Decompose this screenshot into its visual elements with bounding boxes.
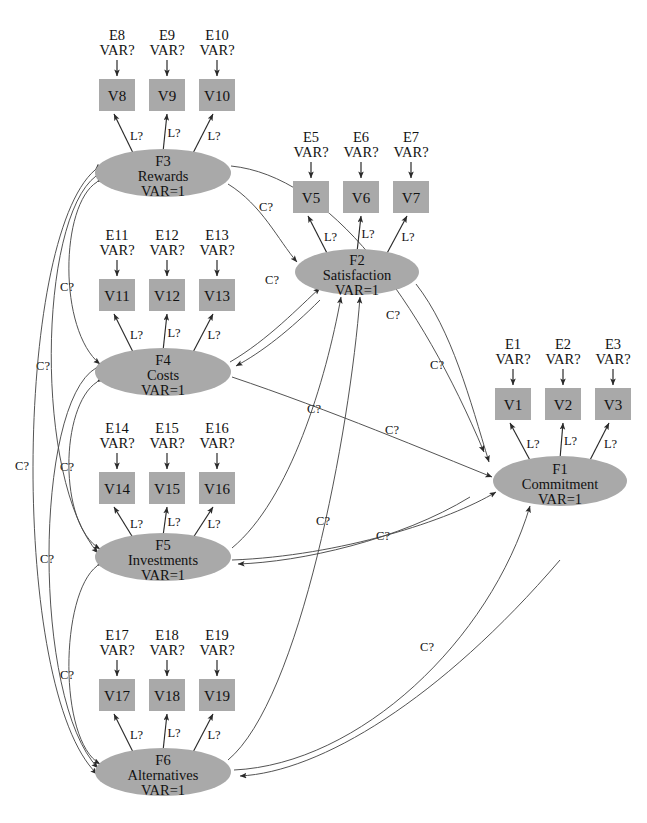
error-variance-e13: VAR?: [199, 242, 234, 258]
factor-group-f2: F2SatisfactionVAR=1: [295, 249, 419, 298]
indicator-group-v14: E14VAR?V14L?: [99, 420, 144, 541]
error-label-e7: E7: [403, 129, 419, 145]
loading-label-v2: L?: [564, 434, 578, 448]
loading-label-v12: L?: [167, 326, 181, 340]
indicator-label-v17: V17: [104, 688, 130, 704]
error-label-e18: E18: [155, 627, 178, 643]
indicator-label-v1: V1: [504, 397, 522, 413]
factor-code-f5: F5: [155, 537, 170, 553]
error-variance-e16: VAR?: [199, 435, 234, 451]
covariance-arc-f4-f6: [49, 368, 98, 768]
path-label-f4-f1: C?: [385, 423, 399, 437]
error-variance-e7: VAR?: [393, 144, 428, 160]
indicator-label-v7: V7: [402, 190, 421, 206]
error-label-e10: E10: [205, 27, 228, 43]
error-variance-e11: VAR?: [99, 242, 134, 258]
factor-code-f1: F1: [552, 461, 567, 477]
indicator-group-v8: E8VAR?V8L?: [99, 27, 144, 157]
loading-arrow-f2-v6: [357, 216, 361, 252]
error-label-e11: E11: [106, 227, 129, 243]
loading-label-v6: L?: [361, 227, 375, 241]
loading-arrow-f5-v15: [163, 507, 167, 536]
indicator-group-v9: E9VAR?V9L?: [149, 27, 185, 152]
loading-label-v10: L?: [207, 129, 221, 143]
error-variance-e9: VAR?: [149, 42, 184, 58]
indicator-group-v17: E17VAR?V17L?: [99, 627, 144, 756]
indicator-label-v13: V13: [204, 288, 230, 304]
loading-label-v11: L?: [130, 328, 144, 342]
factor-variance-f6: VAR=1: [141, 782, 185, 798]
path-f5-to-f2: [232, 297, 341, 548]
factor-variance-f5: VAR=1: [141, 567, 185, 583]
loading-arrow-f1-v2: [560, 423, 563, 459]
error-label-e17: E17: [105, 627, 128, 643]
covariance-label-f3-f6: C?: [15, 459, 29, 473]
loading-label-v1: L?: [526, 437, 540, 451]
error-variance-e3: VAR?: [595, 351, 630, 367]
loading-label-v16: L?: [207, 517, 221, 531]
indicator-group-v19: E19VAR?V19L?: [191, 627, 235, 756]
indicator-label-v3: V3: [604, 397, 622, 413]
factor-code-f3: F3: [155, 153, 170, 169]
sem-path-diagram: C? C? C? C? C? C? C? C?: [0, 0, 647, 823]
indicator-group-v3: E3VAR?V3L?: [588, 336, 631, 464]
factor-name-f2: Satisfaction: [323, 267, 392, 283]
factor-code-f2: F2: [349, 252, 364, 268]
indicator-label-v19: V19: [204, 688, 230, 704]
path-f2-to-f1: [416, 284, 489, 462]
indicator-label-v12: V12: [154, 288, 180, 304]
path-label-f2-f1: C?: [430, 358, 444, 372]
factor-code-f6: F6: [155, 752, 170, 768]
indicator-label-v18: V18: [154, 688, 180, 704]
error-label-e9: E9: [159, 27, 175, 43]
indicator-group-v16: E16VAR?V16L?: [191, 420, 235, 541]
indicator-group-v6: E6VAR?V6L?: [343, 129, 379, 252]
indicator-group-v15: E15VAR?V15L?: [149, 420, 185, 536]
error-label-e8: E8: [109, 27, 125, 43]
error-label-e16: E16: [205, 420, 228, 436]
error-label-e12: E12: [155, 227, 178, 243]
covariance-label-f5-f6: C?: [60, 668, 74, 682]
factor-variance-f2: VAR=1: [335, 282, 379, 298]
factor-name-f4: Costs: [147, 367, 180, 383]
indicator-label-v11: V11: [104, 288, 129, 304]
path-label-f5-f2: C?: [307, 402, 321, 416]
loading-label-v15: L?: [167, 515, 181, 529]
error-label-e15: E15: [155, 420, 178, 436]
factor-code-f4: F4: [155, 352, 171, 368]
loading-label-v9: L?: [167, 126, 181, 140]
covariance-arcs: C? C? C? C? C? C?: [15, 170, 100, 774]
arrow-into-f6-right: [240, 560, 560, 776]
covariance-label-f4-f6: C?: [40, 552, 54, 566]
error-label-e5: E5: [303, 129, 319, 145]
error-variance-e19: VAR?: [199, 642, 234, 658]
indicator-label-v2: V2: [554, 397, 572, 413]
path-f5-to-f1: [232, 492, 496, 560]
loading-label-v13: L?: [207, 328, 221, 342]
indicator-label-v8: V8: [108, 88, 126, 104]
factor-group-f3: F3RewardsVAR=1: [95, 149, 231, 199]
loading-label-v5: L?: [324, 230, 338, 244]
error-label-e13: E13: [205, 227, 228, 243]
indicator-group-v11: E11VAR?V11L?: [99, 227, 144, 356]
loading-label-v17: L?: [130, 728, 144, 742]
indicator-label-v15: V15: [154, 481, 180, 497]
indicator-group-v5: E5VAR?V5L?: [293, 129, 338, 257]
diagram-canvas: C? C? C? C? C? C? C? C?: [0, 0, 647, 823]
error-label-e6: E6: [353, 129, 369, 145]
indicator-group-v1: E1VAR?V1L?: [495, 336, 540, 464]
indicator-group-v10: E10VAR?V10L?: [191, 27, 235, 157]
loading-label-v7: L?: [401, 230, 415, 244]
path-label-f6-f1: C?: [420, 640, 434, 654]
error-variance-e18: VAR?: [149, 642, 184, 658]
path-label-f6-f2: C?: [316, 514, 330, 528]
indicator-group-v2: E2VAR?V2L?: [545, 336, 581, 459]
loading-arrow-f3-v9: [163, 114, 167, 152]
error-variance-e2: VAR?: [545, 351, 580, 367]
loading-arrow-f6-v18: [163, 714, 167, 751]
error-label-e3: E3: [605, 336, 621, 352]
path-f4-to-f2: [230, 288, 320, 362]
arrow-into-f4-right: [236, 300, 320, 366]
covariance-arc-f5-f6: [69, 566, 100, 764]
path-f4-to-f1: [232, 377, 492, 477]
